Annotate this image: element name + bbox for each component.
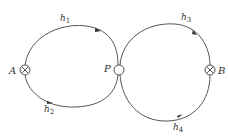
label-h3: h3 [181, 12, 191, 24]
label-h4: h4 [173, 122, 184, 134]
label-h1: h1 [60, 13, 70, 25]
diagram-canvas: A P B h1 h2 h3 h4 [0, 0, 228, 137]
label-a: A [8, 65, 16, 76]
node-p-icon [114, 65, 124, 75]
path-h3 [120, 24, 210, 65]
node-a-icon [20, 65, 30, 75]
arrow-h4-icon [177, 114, 183, 118]
label-p: P [103, 63, 111, 74]
path-h2 [25, 75, 118, 107]
path-h4 [120, 75, 210, 121]
path-h1 [25, 25, 118, 65]
label-b: B [217, 65, 225, 76]
node-b-icon [205, 65, 215, 75]
label-h2: h2 [44, 104, 54, 116]
